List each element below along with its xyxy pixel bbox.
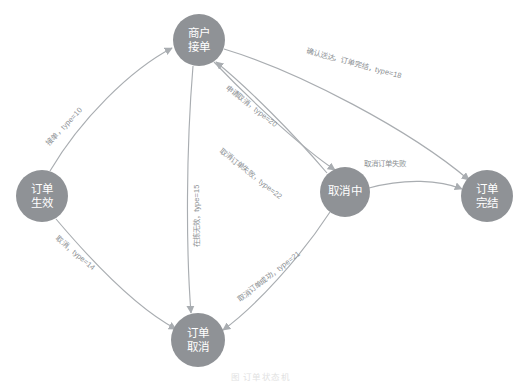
edge-label-cancel-success: 取消订单成功，type=21 — [236, 249, 302, 303]
edge-label-cancel-from-effective: 取消，type=14 — [54, 234, 97, 272]
nodes-layer: 商户 接单 订单 生效 取消中 订单 完结 订单 取消 — [16, 14, 513, 367]
node-merchant-accept-circle[interactable] — [173, 14, 225, 66]
figure-caption: 图 订单状态机 — [0, 370, 521, 382]
edge-label-reject-invalid: 在拣无效，type=15 — [192, 185, 201, 248]
edge-label-confirm-delivered: 确认送达，订单完结，type=18 — [305, 46, 402, 80]
state-machine-graph: 接单，type=10 取消，type=14 在拣无效，type=15 确认送达，… — [0, 0, 521, 384]
edge-label-cancel-failed-finish: 取消订单失败 — [364, 159, 407, 168]
node-order-finished[interactable]: 订单 完结 — [461, 170, 513, 222]
node-order-effective-label-line2: 生效 — [31, 196, 54, 209]
edge-label-cancel-failed-back: 取消订单失败，type=22 — [218, 146, 284, 200]
node-order-effective-label-line1: 订单 — [31, 183, 54, 195]
node-cancelling-label-line1: 取消中 — [328, 184, 362, 197]
node-merchant-accept-label-line1: 商户 — [188, 26, 211, 39]
node-order-cancelled-label-line1: 订单 — [187, 327, 210, 339]
diagram-canvas: 接单，type=10 取消，type=14 在拣无效，type=15 确认送达，… — [0, 0, 521, 384]
edge-cancel-from-effective[interactable] — [56, 219, 176, 329]
node-merchant-accept-label-line2: 接单 — [188, 41, 211, 53]
node-order-finished-label-line2: 完结 — [476, 196, 499, 209]
edge-label-accept: 接单，type=10 — [44, 105, 84, 147]
node-order-effective-circle[interactable] — [16, 170, 68, 222]
node-order-cancelled-label-line2: 取消 — [187, 340, 210, 353]
node-order-effective[interactable]: 订单 生效 — [16, 170, 68, 222]
node-order-cancelled-circle[interactable] — [171, 313, 225, 367]
node-order-finished-label-line1: 订单 — [476, 183, 499, 195]
node-order-cancelled[interactable]: 订单 取消 — [171, 313, 225, 367]
node-merchant-accept[interactable]: 商户 接单 — [173, 14, 225, 66]
node-cancelling[interactable]: 取消中 — [320, 167, 370, 217]
edge-label-apply-cancel: 申请取消，type=20 — [224, 83, 279, 129]
edge-cancel-failed-finish[interactable] — [369, 181, 462, 189]
node-order-finished-circle[interactable] — [461, 170, 513, 222]
edge-accept[interactable] — [50, 48, 172, 171]
